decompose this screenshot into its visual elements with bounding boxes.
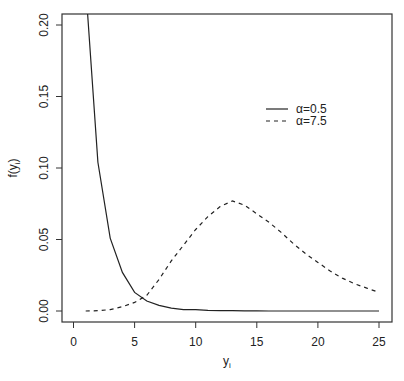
x-tick-label: 10 [189, 335, 203, 349]
legend-value: 7.5 [310, 114, 327, 128]
y-tick-label: 0.20 [37, 13, 51, 37]
x-tick-label: 15 [250, 335, 264, 349]
y-tick-label: 0.00 [37, 299, 51, 323]
x-axis: 0510152025 [70, 322, 386, 349]
plot-frame [62, 14, 392, 322]
y-tick-label: 0.15 [37, 84, 51, 108]
chart: 0.000.050.100.150.20 0510152025 yi f(yi)… [0, 0, 404, 381]
series-line-alpha-7-5 [86, 201, 379, 311]
x-tick-label: 0 [70, 335, 77, 349]
y-tick-label: 0.10 [37, 156, 51, 180]
y-tick-label: 0.05 [37, 227, 51, 251]
legend: α= 0.5 α= 7.5 [266, 102, 327, 128]
x-tick-label: 5 [131, 335, 138, 349]
series-line-alpha-0-5 [86, 0, 379, 311]
y-axis: 0.000.050.100.150.20 [37, 13, 62, 323]
legend-symbol: α= [296, 114, 310, 128]
y-axis-label: f(yi) [6, 158, 22, 177]
x-tick-label: 25 [372, 335, 386, 349]
x-tick-label: 20 [311, 335, 325, 349]
x-axis-label: yi [223, 354, 231, 370]
